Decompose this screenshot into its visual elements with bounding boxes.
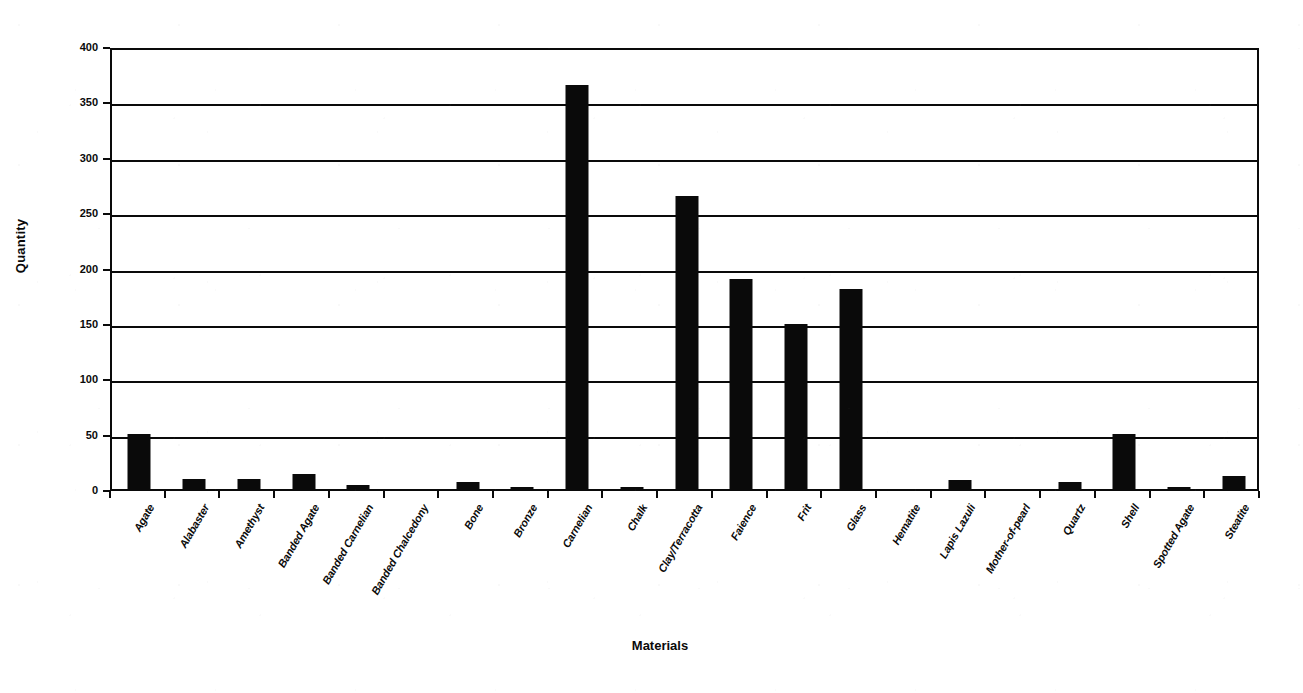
y-tick-mark: [103, 435, 110, 437]
x-tick-mark: [328, 491, 330, 498]
x-tick-mark: [218, 491, 220, 498]
bar: [1167, 487, 1190, 489]
bar: [347, 485, 370, 489]
x-tick-label: Quartz: [1060, 502, 1087, 537]
x-tick-mark: [656, 491, 658, 498]
x-tick-label: Bone: [461, 502, 485, 531]
y-tick-mark: [103, 213, 110, 215]
x-tick-mark: [875, 491, 877, 498]
x-tick-label: Alabaster: [177, 502, 212, 550]
y-tick-mark: [103, 158, 110, 160]
x-tick-mark: [1149, 491, 1151, 498]
x-tick-label: Bronze: [511, 502, 539, 539]
bar: [511, 487, 534, 489]
y-tick-label: 50: [62, 429, 98, 441]
x-tick-label: Chalk: [624, 502, 649, 533]
bar: [128, 434, 151, 489]
bar: [292, 474, 315, 490]
x-tick-mark: [1094, 491, 1096, 498]
x-tick-mark: [164, 491, 166, 498]
bar: [839, 289, 862, 489]
y-tick-label: 100: [62, 373, 98, 385]
y-tick-mark: [103, 324, 110, 326]
x-tick-mark: [1039, 491, 1041, 498]
bar: [1058, 482, 1081, 489]
y-tick-mark: [103, 47, 110, 49]
x-tick-label: Spotted Agate: [1150, 502, 1196, 570]
x-tick-mark: [273, 491, 275, 498]
x-tick-label: Carnelian: [560, 502, 595, 550]
x-tick-label: Banded Carnelian: [320, 502, 376, 586]
x-tick-label: Glass: [843, 502, 868, 533]
x-tick-label: Banded Chalcedony: [369, 502, 431, 597]
bar: [1222, 476, 1245, 489]
x-tick-label: Mother-of-pearl: [983, 502, 1032, 575]
bar: [784, 324, 807, 489]
y-axis-title: Quantity: [13, 219, 28, 273]
bar: [620, 487, 643, 489]
bar-chart-figure: Quantity 050100150200250300350400 AgateA…: [0, 0, 1303, 693]
y-tick-label: 400: [62, 41, 98, 53]
bar: [675, 196, 698, 489]
x-tick-label: Agate: [132, 502, 157, 534]
bar: [456, 482, 479, 489]
bar-series: [112, 50, 1257, 489]
x-tick-mark: [766, 491, 768, 498]
x-tick-mark: [601, 491, 603, 498]
y-tick-label: 200: [62, 263, 98, 275]
y-tick-mark: [103, 379, 110, 381]
x-tick-mark: [437, 491, 439, 498]
y-tick-label: 150: [62, 318, 98, 330]
plot-area: [110, 48, 1259, 491]
x-tick-mark: [820, 491, 822, 498]
y-tick-label: 250: [62, 207, 98, 219]
x-tick-label: Hematite: [890, 502, 923, 547]
bar: [730, 279, 753, 489]
y-tick-label: 300: [62, 152, 98, 164]
x-tick-mark: [984, 491, 986, 498]
x-tick-label: Clay/Terracotta: [655, 502, 704, 574]
y-tick-mark: [103, 102, 110, 104]
x-tick-mark: [711, 491, 713, 498]
bar: [566, 85, 589, 489]
x-tick-label: Shell: [1119, 502, 1142, 530]
x-tick-label: Banded Agate: [275, 502, 321, 570]
x-tick-mark: [492, 491, 494, 498]
x-tick-label: Frit: [794, 502, 813, 523]
x-tick-mark: [109, 491, 111, 498]
bar: [237, 479, 260, 489]
x-tick-label: Lapis Lazuli: [937, 502, 978, 560]
x-axis-title: Materials: [632, 638, 688, 653]
x-tick-mark: [1203, 491, 1205, 498]
bar: [183, 479, 206, 489]
x-tick-label: Faience: [728, 502, 758, 542]
x-tick-mark: [383, 491, 385, 498]
x-tick-mark: [547, 491, 549, 498]
bar: [1113, 434, 1136, 489]
y-tick-mark: [103, 269, 110, 271]
x-tick-mark: [1258, 491, 1260, 498]
y-tick-label: 350: [62, 96, 98, 108]
x-tick-mark: [930, 491, 932, 498]
x-tick-label: Amethyst: [232, 502, 267, 550]
x-tick-label: Steatite: [1222, 502, 1251, 541]
y-tick-label: 0: [62, 484, 98, 496]
bar: [949, 480, 972, 489]
